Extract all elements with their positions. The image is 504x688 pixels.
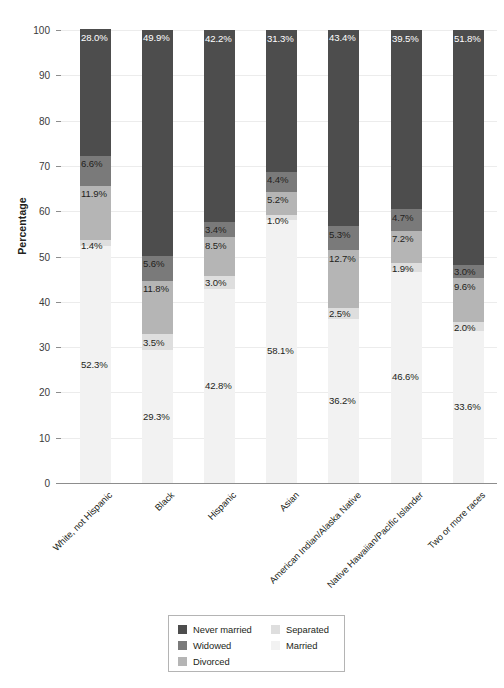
bar-value-label: 6.6% (81, 158, 102, 169)
y-tick-label: 90 (0, 70, 50, 81)
bar-value-label: 8.5% (205, 240, 226, 251)
y-tick-label: 0 (0, 478, 50, 489)
legend-item: Never married (178, 622, 252, 637)
x-axis-label: Two or more races (339, 490, 487, 638)
bar-value-label: 3.0% (454, 266, 475, 277)
bar-value-label: 9.6% (454, 281, 475, 292)
legend-label: Married (286, 640, 317, 651)
bar-stack (453, 30, 484, 483)
bar-stack (204, 30, 235, 483)
bar-value-label: 36.2% (329, 395, 356, 406)
y-tick-label: 50 (0, 251, 50, 262)
bar-value-label: 12.7% (329, 253, 356, 264)
bar-value-label: 4.7% (392, 212, 413, 223)
bar-segment (142, 30, 173, 256)
legend-item: Separated (271, 622, 329, 637)
bar-value-label: 3.4% (205, 224, 226, 235)
x-axis-label: Black (28, 490, 176, 638)
bar-value-label: 1.0% (267, 215, 288, 226)
bar-segment (80, 29, 111, 156)
bar-value-label: 58.1% (267, 345, 294, 356)
legend-swatch (178, 641, 187, 650)
bar-segment (328, 30, 359, 227)
y-tick-label: 20 (0, 387, 50, 398)
bar-value-label: 5.2% (267, 194, 288, 205)
bar-segment (266, 30, 297, 172)
bar-segment (204, 30, 235, 221)
y-tick-label: 30 (0, 342, 50, 353)
legend-label: Never married (193, 624, 252, 635)
y-tick-label: 10 (0, 432, 50, 443)
legend: Never marriedWidowedDivorced SeparatedMa… (168, 615, 345, 672)
bar-value-label: 52.3% (81, 359, 108, 370)
bar-value-label: 51.8% (454, 33, 481, 44)
bar-value-label: 2.5% (329, 308, 350, 319)
bar-value-label: 46.6% (392, 371, 419, 382)
bar-stack (80, 30, 111, 483)
y-tick-label: 60 (0, 206, 50, 217)
y-tick-mark (56, 121, 61, 122)
legend-swatch (178, 657, 187, 666)
bar-value-label: 11.9% (81, 188, 107, 199)
y-tick-mark (56, 438, 61, 439)
bar-value-label: 42.8% (205, 380, 232, 391)
x-axis-baseline (61, 483, 497, 484)
y-tick-mark (56, 166, 61, 167)
y-axis-title: Percentage (16, 166, 28, 286)
bar-value-label: 5.6% (143, 258, 164, 269)
bar-value-label: 7.2% (392, 233, 413, 244)
bar-value-label: 4.4% (267, 174, 288, 185)
y-tick-label: 40 (0, 296, 50, 307)
y-tick-mark (56, 75, 61, 76)
bar-value-label: 29.3% (143, 411, 170, 422)
legend-item: Married (271, 638, 329, 653)
bar-value-label: 1.4% (81, 240, 102, 251)
legend-label: Widowed (193, 640, 231, 651)
legend-column-2: SeparatedMarried (271, 622, 329, 654)
y-tick-label: 100 (0, 25, 50, 36)
bar-value-label: 3.0% (205, 277, 226, 288)
legend-label: Divorced (193, 656, 230, 667)
bar-stack (391, 30, 422, 483)
bar-value-label: 28.0% (81, 32, 108, 43)
y-tick-label: 70 (0, 160, 50, 171)
bar-value-label: 39.5% (392, 33, 419, 44)
legend-label: Separated (286, 624, 329, 635)
bar-value-label: 5.3% (329, 229, 350, 240)
y-tick-mark (56, 30, 61, 31)
y-tick-mark (56, 392, 61, 393)
y-tick-label: 80 (0, 115, 50, 126)
bar-value-label: 49.9% (143, 32, 170, 43)
bar-segment (391, 30, 422, 209)
bar-value-label: 33.6% (454, 401, 481, 412)
legend-item: Widowed (178, 638, 252, 653)
legend-swatch (271, 625, 280, 634)
y-tick-mark (56, 211, 61, 212)
bar-value-label: 11.8% (143, 283, 169, 294)
bar-stack (266, 30, 297, 483)
bar-value-label: 2.0% (454, 322, 475, 333)
bar-value-label: 31.3% (267, 33, 294, 44)
legend-swatch (271, 641, 280, 650)
bar-segment (453, 30, 484, 265)
stacked-bar-chart: Percentage 0102030405060708090100 52.3%1… (0, 0, 504, 688)
y-tick-mark (56, 347, 61, 348)
y-tick-mark (56, 257, 61, 258)
bar-value-label: 1.9% (392, 263, 413, 274)
bar-value-label: 43.4% (329, 32, 356, 43)
legend-swatch (178, 625, 187, 634)
legend-item: Divorced (178, 654, 252, 669)
bar-value-label: 42.2% (205, 33, 232, 44)
bar-value-label: 3.5% (143, 337, 164, 348)
legend-column-1: Never marriedWidowedDivorced (178, 622, 252, 670)
y-tick-mark (56, 302, 61, 303)
